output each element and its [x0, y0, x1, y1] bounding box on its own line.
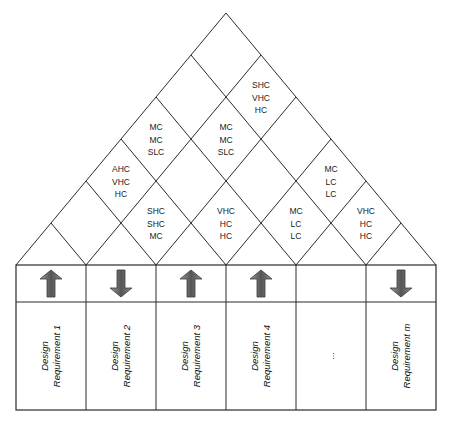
correlation-value: VHC — [112, 177, 130, 187]
correlation-value: VHC — [252, 93, 270, 103]
requirement-label-6: DesignRequirement m — [389, 323, 412, 388]
arrow-up-icon — [250, 270, 272, 297]
ellipsis-label: ... — [326, 352, 336, 360]
correlation-value: HC — [360, 219, 372, 229]
correlation-cell: VHCHCHC — [357, 206, 375, 241]
correlation-value: SLC — [218, 147, 235, 157]
correlation-value: LC — [326, 189, 337, 199]
correlation-value: VHC — [357, 206, 375, 216]
correlation-cell: MCLCLC — [289, 206, 302, 241]
correlation-value: HC — [220, 219, 232, 229]
label-line-2: Requirement 1 — [51, 325, 62, 387]
correlation-value: SHC — [147, 219, 165, 229]
label-line-2: Requirement 2 — [121, 324, 132, 387]
roof-grid-line — [366, 223, 401, 265]
correlation-value: MC — [219, 122, 232, 132]
label-line-2: Requirement 3 — [191, 324, 202, 387]
correlation-value: HC — [115, 189, 127, 199]
correlation-cell: AHCVHCHC — [112, 164, 130, 199]
correlation-value: LC — [291, 219, 302, 229]
requirement-label-3: DesignRequirement 3 — [179, 324, 202, 387]
correlation-cell: SHCVHCHC — [252, 80, 270, 115]
arrow-down-icon — [390, 270, 412, 297]
correlation-value: MC — [149, 122, 162, 132]
roof-grid-line — [121, 139, 226, 265]
correlation-value: HC — [360, 231, 372, 241]
label-line-1: Design — [389, 341, 400, 371]
label-line-2: Requirement 4 — [261, 325, 272, 387]
label-line-1: Design — [39, 341, 50, 371]
requirement-label-4: DesignRequirement 4 — [249, 325, 272, 387]
roof-grid-line — [51, 223, 86, 265]
correlation-value: SHC — [252, 80, 270, 90]
correlation-value: MC — [324, 164, 337, 174]
correlation-cell: MCMCSLC — [218, 122, 235, 157]
correlation-value: LC — [326, 177, 337, 187]
correlation-value: AHC — [112, 164, 130, 174]
roof-grid-line — [191, 55, 366, 265]
correlation-value: SLC — [148, 147, 165, 157]
correlation-value: MC — [219, 135, 232, 145]
roof-grid-line — [226, 139, 331, 265]
roof-grid-line — [86, 55, 261, 265]
requirement-label-5: ... — [326, 352, 336, 360]
correlation-cell: VHCHCHC — [217, 206, 235, 241]
correlation-value: MC — [289, 206, 302, 216]
label-line-1: Design — [179, 341, 190, 371]
arrow-up-icon — [40, 270, 62, 297]
house-of-quality-diagram: AHCVHCHCMCMCSLCSHCSHCMCMCMCSLCSHCVHCHCVH… — [0, 0, 450, 424]
correlation-value: LC — [291, 231, 302, 241]
requirements-table — [16, 265, 436, 410]
correlation-value: HC — [220, 231, 232, 241]
correlation-value: MC — [149, 231, 162, 241]
requirement-label-1: DesignRequirement 1 — [39, 325, 62, 387]
correlation-cell: MCMCSLC — [148, 122, 165, 157]
label-line-1: Design — [249, 341, 260, 371]
label-line-2: Requirement m — [401, 323, 412, 388]
requirement-label-2: DesignRequirement 2 — [109, 324, 132, 387]
correlation-value: HC — [255, 105, 267, 115]
arrow-up-icon — [180, 270, 202, 297]
correlation-value: MC — [149, 135, 162, 145]
correlation-value: VHC — [217, 206, 235, 216]
label-line-1: Design — [109, 341, 120, 371]
correlation-value: SHC — [147, 206, 165, 216]
correlation-cell: SHCSHCMC — [147, 206, 165, 241]
arrow-down-icon — [110, 270, 132, 297]
correlation-cell: MCLCLC — [324, 164, 337, 199]
